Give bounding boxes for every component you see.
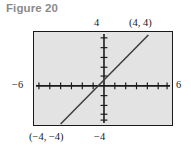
point-label-4-4: (4, 4)	[129, 17, 152, 28]
y-axis-bottom-label: −4	[94, 131, 105, 142]
x-axis	[36, 82, 170, 89]
figure-container: Figure 20	[0, 0, 191, 155]
figure-caption: Figure 20	[6, 2, 58, 14]
x-axis-left-label: −6	[12, 79, 23, 90]
point-label-neg4-neg4: (−4, −4)	[29, 131, 64, 142]
plot-area	[33, 31, 173, 126]
coordinate-plane-graphic	[34, 32, 172, 125]
x-axis-right-label: 6	[176, 79, 181, 90]
y-axis-top-label: 4	[94, 17, 99, 28]
